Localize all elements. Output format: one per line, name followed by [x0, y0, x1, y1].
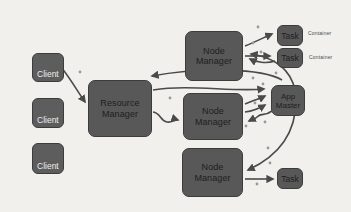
architecture-diagram: Client Client Client Resource Manager No… [0, 0, 351, 212]
app-master-node: App Master [271, 85, 305, 116]
task-node-2: Task [277, 48, 303, 68]
resource-manager-node: Resource Manager [88, 80, 152, 137]
node-manager-node-2: Node Manager [183, 93, 243, 140]
node-manager-node-3: Node Manager [182, 148, 243, 197]
container-label-1: Container [308, 31, 331, 36]
client-node-3: Client [32, 143, 64, 174]
node-manager-node-1: Node Manager [185, 31, 243, 81]
container-label-2: Container [309, 55, 332, 60]
edge-am-to-nm2 [249, 111, 272, 121]
client-node-1: Client [32, 53, 64, 82]
client-node-2: Client [32, 98, 64, 128]
edge-client-to-rm [61, 67, 85, 102]
task-node-1: Task [277, 25, 303, 46]
edge-rm-to-am [153, 88, 264, 90]
edge-rm-to-nm2 [153, 112, 178, 122]
task-node-3: Task [277, 168, 303, 189]
edge-nm2-to-am-lower [245, 105, 265, 112]
edge-nm1-to-task1 [245, 34, 272, 46]
